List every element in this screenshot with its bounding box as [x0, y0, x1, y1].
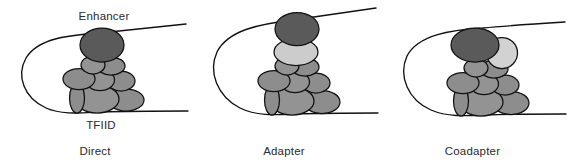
tfiid-complex [63, 56, 144, 113]
panel-coadapter: Coadapter [378, 0, 567, 167]
panel-direct: Enhancer TFIID Direct [0, 0, 190, 167]
panel-adapter-caption: Adapter [188, 145, 380, 157]
panel-coadapter-caption: Coadapter [378, 145, 567, 157]
enhancer-label: Enhancer [79, 10, 130, 22]
panel-direct-diagram: Enhancer TFIID [0, 0, 190, 167]
tfiid-label: TFIID [86, 119, 116, 131]
activator-blob [451, 28, 499, 62]
tfiid-complex [447, 59, 529, 116]
panel-adapter-diagram [188, 0, 380, 167]
activator-blob [275, 13, 319, 46]
panel-adapter: Adapter [188, 0, 380, 167]
transcription-activation-figure: Enhancer TFIID Direct [0, 0, 567, 167]
panel-direct-caption: Direct [0, 145, 190, 157]
activator-blob [80, 28, 124, 62]
panel-coadapter-diagram [378, 0, 567, 167]
